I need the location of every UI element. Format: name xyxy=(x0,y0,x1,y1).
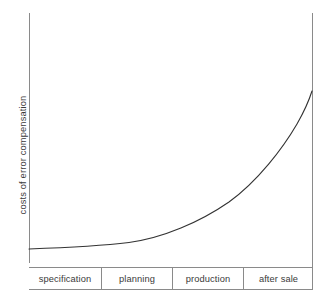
cost-curve-path xyxy=(29,91,312,249)
category-cell-specification: specification xyxy=(29,268,101,289)
chart-container: costs of error compensation specificatio… xyxy=(0,0,331,300)
cost-curve-svg xyxy=(0,0,331,300)
category-label-after-sale: after sale xyxy=(259,274,298,284)
category-axis-table: specification planning production after … xyxy=(29,267,313,290)
category-cell-production: production xyxy=(172,268,243,289)
category-label-production: production xyxy=(186,274,230,284)
category-cell-planning: planning xyxy=(101,268,172,289)
category-label-planning: planning xyxy=(119,274,155,284)
category-label-specification: specification xyxy=(39,274,91,284)
category-cell-after-sale: after sale xyxy=(243,268,313,289)
